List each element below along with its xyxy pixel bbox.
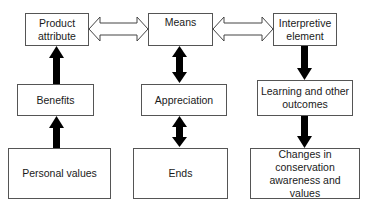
arrow-down-icon <box>297 46 312 80</box>
arrow-double-vertical-icon <box>172 116 187 147</box>
hollow-double-arrow-icon <box>213 17 273 41</box>
hollow-double-arrow-icon <box>89 17 148 41</box>
arrow-double-vertical-icon <box>172 46 187 83</box>
node-ends: Ends <box>133 148 228 199</box>
node-label: Benefits <box>37 94 75 107</box>
arrow-down-icon <box>297 116 312 148</box>
node-label: Changes in conservation awareness and va… <box>253 148 357 200</box>
arrow-up-icon <box>49 116 64 148</box>
node-label: Interpretive element <box>276 17 334 43</box>
node-label: Means <box>165 16 197 29</box>
node-label: Ends <box>169 167 193 180</box>
node-benefits: Benefits <box>17 84 94 116</box>
node-label: Personal values <box>22 167 97 180</box>
node-label: Learning and other outcomes <box>260 85 350 111</box>
node-personal-values: Personal values <box>8 148 111 199</box>
node-learning-outcomes: Learning and other outcomes <box>257 80 353 116</box>
node-product-attribute: Product attribute <box>25 13 89 46</box>
node-means: Means <box>148 13 213 46</box>
node-label: Appreciation <box>155 94 213 107</box>
node-changes-conservation: Changes in conservation awareness and va… <box>250 148 360 199</box>
node-interpretive-element: Interpretive element <box>273 13 337 46</box>
node-appreciation: Appreciation <box>141 84 227 116</box>
node-label: Product attribute <box>28 17 86 43</box>
arrow-up-icon <box>49 46 64 84</box>
